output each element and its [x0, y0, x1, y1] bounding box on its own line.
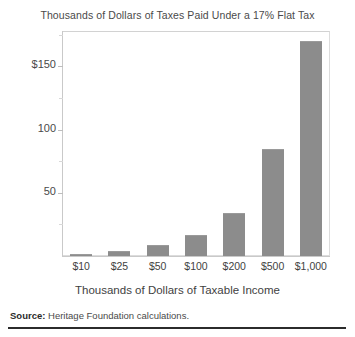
footer-rule — [8, 327, 346, 329]
x-axis-line — [62, 256, 330, 257]
bar-slot — [253, 31, 291, 256]
y-axis-tick-label: 100 — [38, 122, 56, 134]
bar-slot — [100, 31, 138, 256]
x-axis-tick-label: $1,000 — [292, 260, 330, 272]
x-axis-title: Thousands of Dollars of Taxable Income — [0, 284, 355, 296]
bar-slot — [62, 31, 100, 256]
bar-slot — [139, 31, 177, 256]
bar-slot — [292, 31, 330, 256]
bar[interactable] — [185, 235, 207, 256]
source-text: Heritage Foundation calculations. — [45, 310, 189, 321]
chart-figure: Thousands of Dollars of Taxes Paid Under… — [0, 0, 355, 337]
x-axis-tick-label: $25 — [100, 260, 138, 272]
source-label: Source: — [10, 310, 45, 321]
x-axis-tick-label: $500 — [253, 260, 291, 272]
bar[interactable] — [262, 149, 284, 256]
bar[interactable] — [300, 41, 322, 256]
x-axis-tick-label: $10 — [62, 260, 100, 272]
x-axis-tick-label: $100 — [177, 260, 215, 272]
bar[interactable] — [147, 245, 169, 256]
bar-slot — [177, 31, 215, 256]
bar[interactable] — [223, 213, 245, 256]
x-axis-tick-label: $50 — [139, 260, 177, 272]
bars-layer — [62, 31, 330, 256]
y-axis-tick-label: $150 — [32, 58, 56, 70]
source-line: Source: Heritage Foundation calculations… — [10, 310, 189, 321]
chart-title: Thousands of Dollars of Taxes Paid Under… — [0, 9, 355, 21]
y-axis-tick-label: 50 — [44, 185, 56, 197]
bar-slot — [215, 31, 253, 256]
x-axis-tick-labels: $10$25$50$100$200$500$1,000 — [62, 260, 330, 276]
x-axis-tick-label: $200 — [215, 260, 253, 272]
